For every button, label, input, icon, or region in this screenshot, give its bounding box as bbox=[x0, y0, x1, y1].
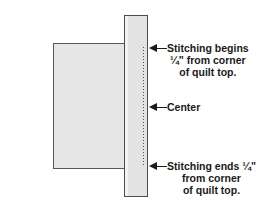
annotation-stitching-begins: Stitching begins ¼" from corner of quilt… bbox=[149, 42, 249, 79]
border-strip-highlight bbox=[125, 16, 128, 196]
quilt-border-diagram: Stitching begins ¼" from corner of quilt… bbox=[0, 0, 262, 209]
annotation-stitching-ends-label: Stitching ends ¼" from corner of quilt t… bbox=[167, 160, 256, 197]
left-arrow-icon bbox=[149, 43, 167, 54]
annotation-stitching-begins-label: Stitching begins ¼" from corner of quilt… bbox=[167, 42, 249, 79]
annotation-center: Center bbox=[149, 101, 200, 113]
annotation-stitching-ends: Stitching ends ¼" from corner of quilt t… bbox=[149, 160, 256, 197]
quilt-top-shape bbox=[53, 43, 131, 169]
annotation-center-label: Center bbox=[167, 101, 200, 113]
left-arrow-icon bbox=[149, 102, 167, 113]
left-arrow-icon bbox=[149, 161, 167, 172]
stitching-line bbox=[143, 47, 144, 166]
